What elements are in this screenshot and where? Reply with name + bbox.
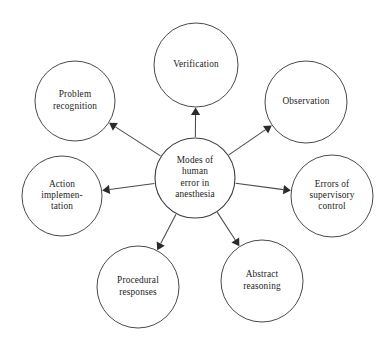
node-verification[interactable]: Verification [154,23,238,107]
node-procedural-responses[interactable]: Proceduralresponses [97,246,179,328]
edge-center-to-procedural-responses [157,214,176,250]
edge-center-to-observation [229,125,272,154]
node-errors-of-supervisory-control[interactable]: Errors ofsupervisorycontrol [291,155,373,237]
node-label-observation: Observation [282,96,329,106]
edge-center-to-verification [191,108,200,138]
arrowhead-icon [263,125,272,133]
node-label-verification: Verification [173,59,219,69]
hub-and-spoke-diagram: VerificationObservationErrors ofsupervis… [0,0,391,347]
arrowhead-icon [283,185,291,194]
edge-center-to-action-implementation [102,184,154,195]
node-action-implementation[interactable]: Actionimplemen-tation [22,156,102,236]
node-abstract-reasoning[interactable]: Abstractreasoning [221,240,303,322]
arrowhead-icon [109,123,118,131]
edge-center-to-abstract-reasoning [217,212,239,246]
edge-center-to-errors-of-supervisory-control [236,183,291,194]
arrowhead-icon [102,185,110,194]
node-layer: VerificationObservationErrors ofsupervis… [22,23,373,328]
arrowhead-icon [231,237,239,246]
diagram-canvas: VerificationObservationErrors ofsupervis… [0,0,391,347]
node-modes-of-human-error-in-anesthesia[interactable]: Modes ofhumanerror inanesthesia [155,138,235,218]
node-problem-recognition[interactable]: Problemrecognition [35,61,115,141]
node-label-procedural-responses: Proceduralresponses [117,275,159,296]
node-label-problem-recognition: Problemrecognition [53,89,97,110]
node-label-modes-of-human-error-in-anesthesia: Modes ofhumanerror inanesthesia [175,155,215,199]
arrowhead-icon [191,108,200,116]
edge-center-to-problem-recognition [109,123,160,156]
node-observation[interactable]: Observation [265,61,347,143]
node-label-abstract-reasoning: Abstractreasoning [243,269,281,290]
